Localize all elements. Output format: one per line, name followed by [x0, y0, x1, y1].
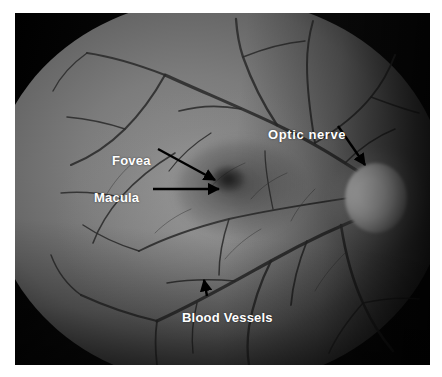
label-blood-vessels: Blood Vessels: [182, 311, 273, 324]
macula-region: [177, 141, 305, 237]
figure-canvas: Optic nerve Fovea Macula Blood Vessels: [0, 0, 442, 377]
fovea-region: [211, 166, 245, 192]
label-macula: Macula: [94, 191, 139, 204]
optic-disc: [345, 163, 407, 233]
label-fovea: Fovea: [112, 154, 151, 167]
retinal-fundus-photograph: Optic nerve Fovea Macula Blood Vessels: [15, 13, 430, 365]
label-optic-nerve: Optic nerve: [268, 128, 346, 141]
